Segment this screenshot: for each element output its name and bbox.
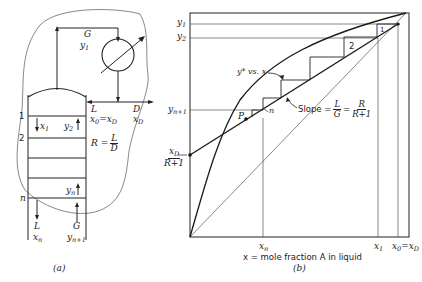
caption-a: (a) (53, 264, 65, 273)
x-tick-xd: x0=xD (392, 242, 419, 253)
condenser (102, 39, 134, 71)
x-tick-x1: x1 (374, 242, 383, 253)
y-tick-yn1: yn+1 (168, 105, 187, 116)
stream-yn: yn (66, 186, 75, 197)
x-tick-xn: xn (259, 242, 268, 253)
bottom-vapor-flow: G (73, 222, 80, 231)
bottom-vapor-comp: yn+1 (67, 233, 86, 244)
operating-line (190, 24, 398, 155)
bottom-liquid-comp: xn (33, 233, 42, 244)
figure-canvas (0, 0, 422, 282)
reflux-ratio: R = LD (91, 134, 118, 153)
stage-2-label: 2 (349, 42, 354, 51)
stage-1-label: 1 (380, 27, 384, 34)
diagonal-line (190, 14, 405, 237)
point-p-label: P (238, 112, 244, 121)
stream-x1: x1 (40, 122, 49, 133)
bottom-liquid-flow: L (34, 222, 40, 231)
y-tick-y2: y2 (177, 32, 186, 43)
reflux-flow: L (91, 105, 97, 114)
vapor-top-comp: y1 (80, 41, 89, 52)
slope-label: Slope = LG = RR+1 (298, 100, 371, 118)
distillate-comp: xD (133, 115, 143, 126)
vapor-top-flow: G (84, 30, 91, 39)
y-tick-y1: y1 (177, 18, 186, 29)
plate-n-label: n (20, 194, 26, 203)
stage-n-label: n (269, 107, 274, 115)
equilibrium-label: y* vs. x (237, 68, 266, 76)
intercept-label: xDR+1 (164, 147, 184, 168)
distillate-flow: D (133, 105, 140, 114)
reflux-comp: x0=xD (90, 115, 117, 126)
x-axis-label: x = mole fraction A in liquid (243, 253, 362, 262)
stream-y2: y2 (64, 122, 73, 133)
panel-b (178, 13, 409, 237)
plate-1-label: 1 (19, 112, 24, 121)
caption-b: (b) (293, 264, 306, 273)
plate-2-label: 2 (19, 134, 24, 143)
